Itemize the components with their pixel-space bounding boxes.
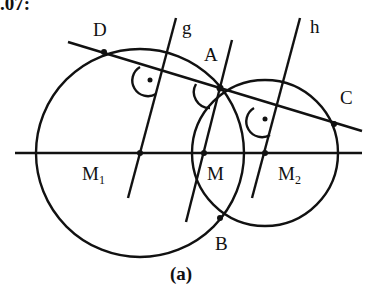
label-h: h bbox=[310, 17, 320, 36]
label-m1: M1 bbox=[82, 164, 105, 186]
label-m2: M2 bbox=[278, 164, 301, 186]
figure-drawing bbox=[0, 0, 367, 294]
point-m2 bbox=[262, 150, 268, 156]
label-g: g bbox=[182, 18, 192, 37]
header-fragment: .07: bbox=[0, 0, 30, 13]
label-a: A bbox=[204, 45, 218, 64]
right-angle-dot-h bbox=[263, 117, 268, 122]
point-c bbox=[331, 121, 337, 127]
point-a bbox=[217, 85, 224, 92]
right-angle-arc-g bbox=[132, 67, 156, 96]
point-m1 bbox=[137, 150, 143, 156]
label-d: D bbox=[93, 20, 107, 39]
line-g bbox=[128, 18, 176, 198]
right-angle-arc-h bbox=[246, 108, 270, 137]
figure-caption: (a) bbox=[170, 264, 192, 283]
right-angle-dot-g bbox=[148, 78, 153, 83]
label-m: M bbox=[207, 164, 224, 183]
label-c: C bbox=[340, 88, 353, 107]
label-b: B bbox=[215, 234, 228, 253]
line-am bbox=[186, 40, 232, 222]
point-d bbox=[101, 49, 107, 55]
angle-arc-a bbox=[194, 84, 210, 108]
geometry-figure: .07: D g A h C M1 M M2 B (a) bbox=[0, 0, 367, 294]
point-m bbox=[201, 150, 207, 156]
point-b bbox=[217, 215, 223, 221]
